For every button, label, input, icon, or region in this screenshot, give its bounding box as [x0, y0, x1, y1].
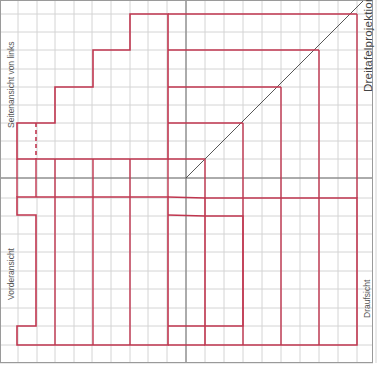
projection-line-horizontal — [168, 215, 205, 216]
three-view-projection-diagram — [0, 0, 378, 366]
side-view-label: Seitenansicht von links — [6, 42, 16, 128]
top-view-label: Draufsicht — [362, 280, 372, 318]
diagram-title: Dreitafelprojektion — [362, 0, 374, 92]
projection-line-horizontal — [168, 197, 205, 198]
view-outlines — [17, 14, 357, 345]
front-view-label: Vorderansicht — [6, 248, 16, 300]
